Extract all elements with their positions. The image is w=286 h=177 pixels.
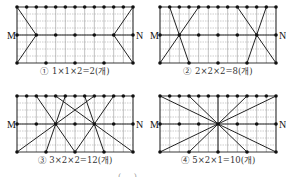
point-bottom xyxy=(187,61,191,65)
label-n: N xyxy=(279,119,286,130)
point-middle xyxy=(112,122,116,126)
panel-caption: ② 2×2×2=8(개) xyxy=(183,66,252,76)
point-top xyxy=(44,5,48,9)
point-middle xyxy=(54,122,58,126)
point-top xyxy=(255,5,259,9)
point-middle xyxy=(131,33,135,37)
label-m: M xyxy=(150,119,159,130)
point-middle xyxy=(93,33,97,37)
point-top xyxy=(73,94,77,98)
point-top xyxy=(15,5,19,9)
point-bottom xyxy=(73,61,77,65)
point-bottom xyxy=(44,150,48,154)
point-top xyxy=(122,94,126,98)
point-top xyxy=(131,5,135,9)
point-middle xyxy=(255,33,259,37)
point-top xyxy=(236,94,240,98)
point-top xyxy=(15,94,19,98)
point-middle xyxy=(93,122,97,126)
point-top xyxy=(122,5,126,9)
point-top xyxy=(44,94,48,98)
point-top xyxy=(93,94,97,98)
point-bottom xyxy=(274,61,278,65)
point-top xyxy=(178,94,182,98)
point-top xyxy=(168,5,172,9)
label-m: M xyxy=(7,119,16,130)
point-top xyxy=(168,94,172,98)
panel-2: MN② 2×2×2=8(개) xyxy=(150,5,286,76)
point-bottom xyxy=(216,61,220,65)
point-top xyxy=(178,5,182,9)
label-n: N xyxy=(136,30,143,41)
point-bottom xyxy=(102,61,106,65)
point-middle xyxy=(73,122,77,126)
point-middle xyxy=(197,33,201,37)
label-m: M xyxy=(150,30,159,41)
label-n: N xyxy=(279,30,286,41)
cropped-text-fragment: ( . . ) xyxy=(118,171,168,177)
point-middle xyxy=(112,33,116,37)
point-bottom xyxy=(187,150,191,154)
point-top xyxy=(102,94,106,98)
point-middle xyxy=(35,33,39,37)
panel-caption: ① 1×1×2=2(개) xyxy=(40,66,109,76)
point-top xyxy=(236,5,240,9)
point-top xyxy=(216,5,220,9)
point-top xyxy=(54,5,58,9)
point-top xyxy=(255,94,259,98)
point-middle xyxy=(216,33,220,37)
point-top xyxy=(64,5,68,9)
point-bottom xyxy=(158,150,162,154)
point-top xyxy=(207,94,211,98)
path-counting-diagram: MN① 1×1×2=2(개)MN② 2×2×2=8(개)MN③ 3×2×2=12… xyxy=(0,0,286,177)
point-top xyxy=(83,5,87,9)
point-bottom xyxy=(44,61,48,65)
panel-caption: ④ 5×2×1=10(개) xyxy=(181,155,256,165)
point-middle xyxy=(197,122,201,126)
point-middle xyxy=(54,33,58,37)
point-top xyxy=(73,5,77,9)
point-middle xyxy=(35,122,39,126)
point-top xyxy=(83,94,87,98)
point-middle xyxy=(178,33,182,37)
point-bottom xyxy=(245,61,249,65)
point-middle xyxy=(255,122,259,126)
point-top xyxy=(102,5,106,9)
point-top xyxy=(158,5,162,9)
point-top xyxy=(93,5,97,9)
point-top xyxy=(197,5,201,9)
point-top xyxy=(207,5,211,9)
point-top xyxy=(245,94,249,98)
point-top xyxy=(112,5,116,9)
point-bottom xyxy=(73,150,77,154)
panel-3: MN③ 3×2×2=12(개) xyxy=(7,94,143,165)
point-bottom xyxy=(216,150,220,154)
point-top xyxy=(25,5,29,9)
point-top xyxy=(158,94,162,98)
point-top xyxy=(245,5,249,9)
point-top xyxy=(226,5,230,9)
point-top xyxy=(216,94,220,98)
point-bottom xyxy=(131,61,135,65)
point-middle xyxy=(236,122,240,126)
label-n: N xyxy=(136,119,143,130)
point-top xyxy=(274,5,278,9)
label-m: M xyxy=(7,30,16,41)
point-bottom xyxy=(274,150,278,154)
point-middle xyxy=(73,33,77,37)
panel-1: MN① 1×1×2=2(개) xyxy=(7,5,143,76)
point-top xyxy=(187,5,191,9)
point-top xyxy=(35,94,39,98)
point-middle xyxy=(274,33,278,37)
point-top xyxy=(25,94,29,98)
point-bottom xyxy=(15,150,19,154)
point-bottom xyxy=(158,61,162,65)
point-top xyxy=(54,94,58,98)
point-bottom xyxy=(102,150,106,154)
point-top xyxy=(226,94,230,98)
point-top xyxy=(187,94,191,98)
panel-caption: ③ 3×2×2=12(개) xyxy=(38,155,113,165)
panel-4: MN④ 5×2×1=10(개) xyxy=(150,94,286,165)
point-top xyxy=(274,94,278,98)
point-middle xyxy=(131,122,135,126)
